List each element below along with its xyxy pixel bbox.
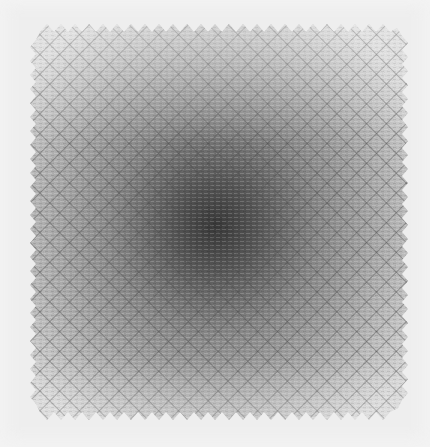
image-canvas <box>0 0 430 447</box>
textured-mesh-patch <box>30 24 408 420</box>
mesh-texture-graphic <box>30 24 408 420</box>
